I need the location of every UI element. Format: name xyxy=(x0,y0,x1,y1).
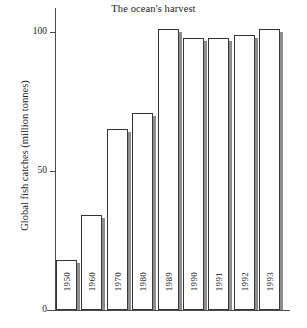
y-tick-mark-50 xyxy=(50,171,56,172)
bar-label-1991: 1991 xyxy=(214,272,224,291)
y-tick-label-100: 100 xyxy=(14,26,47,36)
bar-label-1970: 1970 xyxy=(113,272,123,291)
bar-1960 xyxy=(81,215,102,310)
bar-1992 xyxy=(234,35,255,310)
bar-label-1990: 1990 xyxy=(189,272,199,291)
chart-title: The ocean's harvest xyxy=(0,3,307,14)
bar-label-1950: 1950 xyxy=(62,272,72,291)
bar-chart-figure: The ocean's harvest Global fish catches … xyxy=(0,0,307,328)
bar-label-1989: 1989 xyxy=(164,272,174,291)
bar-1991 xyxy=(208,38,229,310)
y-tick-mark-100 xyxy=(50,32,56,33)
bar-label-1992: 1992 xyxy=(240,272,250,291)
y-tick-label-0: 0 xyxy=(14,304,47,314)
bar-1993 xyxy=(259,29,280,310)
bar-label-1980: 1980 xyxy=(138,272,148,291)
y-tick-label-50: 50 xyxy=(14,165,47,175)
bar-label-1960: 1960 xyxy=(87,272,97,291)
bar-1990 xyxy=(183,38,204,310)
bar-label-1993: 1993 xyxy=(265,272,275,291)
bar-1989 xyxy=(158,29,179,310)
y-axis-label: Global fish catches (million tonnes) xyxy=(19,36,30,276)
x-axis-line xyxy=(47,310,290,311)
y-tick-mark-0 xyxy=(50,310,56,311)
